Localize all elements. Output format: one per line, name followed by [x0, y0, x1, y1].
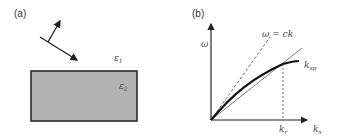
y-axis-label: ω — [201, 39, 209, 49]
light-line-dashed — [211, 37, 270, 120]
epsilon-1-label: ε1 — [114, 53, 123, 64]
panel-b-label: (b) — [192, 8, 204, 19]
reflected-arrow-icon — [48, 21, 60, 42]
panel-a: (a) ε1 ε2 — [14, 8, 137, 121]
dielectric-slab — [31, 71, 137, 121]
panel-b: (b) ω kx ω = ck ksp kr — [192, 8, 322, 135]
figure: (a) ε1 ε2 (b) ω kx ω = ck ksp kr — [0, 0, 339, 140]
tilted-light-line — [211, 48, 302, 120]
kr-label: kr — [279, 124, 288, 135]
ksp-label: ksp — [304, 60, 317, 72]
sp-dispersion-curve — [211, 61, 299, 120]
x-axis-label: kx — [313, 124, 322, 135]
incident-arrow-icon — [40, 37, 77, 60]
light-line-label: ω = ck — [262, 29, 293, 39]
panel-a-label: (a) — [14, 8, 26, 19]
